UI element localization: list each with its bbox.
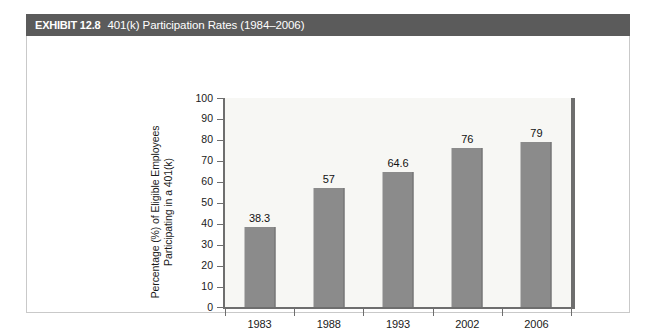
x-axis-labels: 1983 1988 1993 2002 2006 (225, 318, 571, 328)
exhibit-number: EXHIBIT 12.8 (35, 19, 100, 31)
y-axis-title: Percentage (%) of Eligible Employees Par… (148, 114, 176, 310)
x-axis-tick-2 (363, 309, 364, 316)
plot-right-border (571, 98, 573, 307)
x-axis-tick-3 (433, 309, 434, 316)
bar-2006[interactable] (521, 142, 552, 307)
y-axis-tick-100 (217, 98, 223, 99)
bar-value-1988: 57 (323, 173, 335, 185)
bar-1993[interactable] (382, 172, 413, 307)
y-axis-label-0: 0 (189, 302, 213, 312)
y-axis-label-100: 100 (189, 93, 213, 103)
bar-group-2002: 76 (433, 98, 502, 307)
x-axis-label-1988: 1988 (317, 318, 341, 328)
bar-group-2006: 79 (502, 98, 571, 307)
x-axis-label-2006: 2006 (524, 318, 548, 328)
y-axis-tick-50 (217, 203, 223, 204)
x-axis-tick-start (225, 309, 226, 316)
x-axis-tick-4 (502, 309, 503, 316)
y-axis-tick-20 (217, 266, 223, 267)
y-axis-tick-70 (217, 161, 223, 162)
bar-1983[interactable] (244, 227, 275, 307)
y-axis-label-50: 50 (189, 197, 213, 207)
x-axis-label-1993: 1993 (386, 318, 410, 328)
bar-group-1988: 57 (294, 98, 363, 307)
bar-value-2002: 76 (461, 133, 473, 145)
y-axis-tick-80 (217, 140, 223, 141)
x-axis-tick-1 (294, 309, 295, 316)
bars-layer: 38.3 57 64.6 76 79 (225, 98, 571, 307)
bar-1988[interactable] (313, 188, 344, 307)
y-axis-title-line-2: Participating in a 401(k) (162, 158, 175, 266)
y-axis-label-80: 80 (189, 134, 213, 144)
y-axis-label-10: 10 (189, 281, 213, 291)
x-axis-tick-end (571, 309, 572, 316)
y-axis-label-60: 60 (189, 176, 213, 186)
y-axis-tick-40 (217, 224, 223, 225)
y-axis-tick-0 (217, 307, 223, 308)
y-axis-title-line-1: Percentage (%) of Eligible Employees (149, 126, 162, 299)
y-axis-tick-10 (217, 287, 223, 288)
bar-group-1993: 64.6 (363, 98, 432, 307)
y-axis-label-30: 30 (189, 239, 213, 249)
y-axis-label-20: 20 (189, 260, 213, 270)
y-axis-label-40: 40 (189, 218, 213, 228)
y-axis-label-70: 70 (189, 155, 213, 165)
bar-2002[interactable] (452, 148, 483, 307)
bar-group-1983: 38.3 (225, 98, 294, 307)
y-axis-label-90: 90 (189, 113, 213, 123)
y-axis-labels: 100 90 80 70 60 50 40 30 20 10 0 (187, 36, 213, 312)
x-axis-label-2002: 2002 (455, 318, 479, 328)
y-axis-tick-30 (217, 245, 223, 246)
bar-value-2006: 79 (530, 127, 542, 139)
exhibit-title: 401(k) Participation Rates (1984–2006) (107, 19, 304, 31)
bar-value-1983: 38.3 (249, 212, 270, 224)
x-axis-label-1983: 1983 (248, 318, 272, 328)
bar-value-1993: 64.6 (387, 157, 408, 169)
exhibit-header-bar: EXHIBIT 12.8 401(k) Participation Rates … (26, 14, 630, 36)
y-axis-tick-90 (217, 119, 223, 120)
y-axis-tick-60 (217, 182, 223, 183)
chart-region: Percentage (%) of Eligible Employees Par… (27, 36, 629, 312)
